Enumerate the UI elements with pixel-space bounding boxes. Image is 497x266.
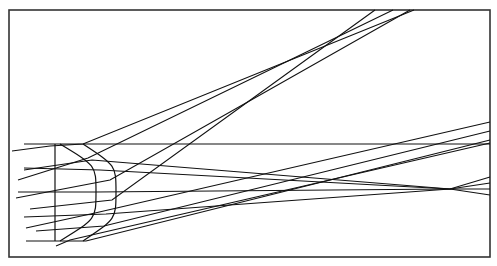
diagram-frame — [9, 10, 490, 257]
light-ray-r-top-1 — [12, 10, 414, 151]
light-rays — [12, 10, 490, 246]
lens-ray-diagram — [0, 0, 497, 266]
light-ray-r-right-1 — [24, 160, 490, 189]
